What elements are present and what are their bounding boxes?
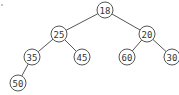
tree-node: 45 <box>74 49 90 65</box>
tree-edge <box>132 40 142 51</box>
tree-node: 35 <box>24 49 40 65</box>
tree-node: 25 <box>51 26 67 42</box>
node-label: 30 <box>167 53 178 63</box>
tree-edge <box>65 40 77 52</box>
node-label: 60 <box>122 53 133 63</box>
node-label: 18 <box>100 6 111 16</box>
node-label: 35 <box>27 53 38 63</box>
node-label: 50 <box>13 79 24 89</box>
tree-node: 30 <box>164 49 179 65</box>
tree-node: 18 <box>97 2 113 18</box>
binary-tree-diagram: 1825203545603050 <box>0 0 179 95</box>
node-label: 25 <box>54 30 65 40</box>
tree-edge <box>22 64 28 76</box>
tree-edge <box>66 14 98 31</box>
tree-edge <box>153 39 166 51</box>
stray-dot <box>1 4 3 6</box>
tree-edges <box>22 14 166 76</box>
tree-edge <box>38 39 53 52</box>
tree-node: 60 <box>119 49 135 65</box>
tree-node: 50 <box>10 75 26 91</box>
node-label: 45 <box>77 53 88 63</box>
tree-edge <box>112 14 140 30</box>
node-label: 20 <box>142 30 153 40</box>
tree-node: 20 <box>139 26 155 42</box>
